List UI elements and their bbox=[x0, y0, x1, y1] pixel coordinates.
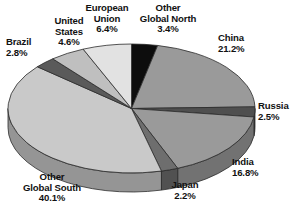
slice-label-china: China 21.2% bbox=[218, 33, 278, 54]
slice-label-japan-name: Japan bbox=[160, 180, 210, 191]
slice-label-russia-value: 2.5% bbox=[258, 112, 304, 123]
slice-label-other-global-south-name1: Other bbox=[6, 172, 98, 183]
slice-label-other-global-north: Other Global North 3.4% bbox=[130, 3, 206, 35]
slice-label-brazil-value: 2.8% bbox=[6, 48, 62, 59]
slice-label-other-global-north-value: 3.4% bbox=[130, 24, 206, 35]
slice-label-japan-value: 2.2% bbox=[160, 191, 210, 202]
slice-label-china-name: China bbox=[218, 33, 278, 44]
slice-label-other-global-south: Other Global South 40.1% bbox=[6, 172, 98, 204]
slice-label-india: India 16.8% bbox=[232, 157, 282, 178]
slice-label-india-name: India bbox=[232, 157, 282, 168]
slice-label-india-value: 16.8% bbox=[232, 168, 282, 179]
slice-label-other-global-north-name1: Other bbox=[130, 3, 206, 14]
slice-label-japan: Japan 2.2% bbox=[160, 180, 210, 201]
pie-top-faces bbox=[8, 44, 255, 173]
slice-label-russia: Russia 2.5% bbox=[258, 101, 304, 122]
slice-label-other-global-south-value: 40.1% bbox=[6, 193, 98, 204]
pie-chart-figure: Brazil 2.8% United States 4.6% European … bbox=[0, 0, 306, 209]
slice-label-china-value: 21.2% bbox=[218, 44, 278, 55]
slice-label-united-states-value: 4.6% bbox=[38, 37, 100, 48]
slice-label-russia-name: Russia bbox=[258, 101, 304, 112]
